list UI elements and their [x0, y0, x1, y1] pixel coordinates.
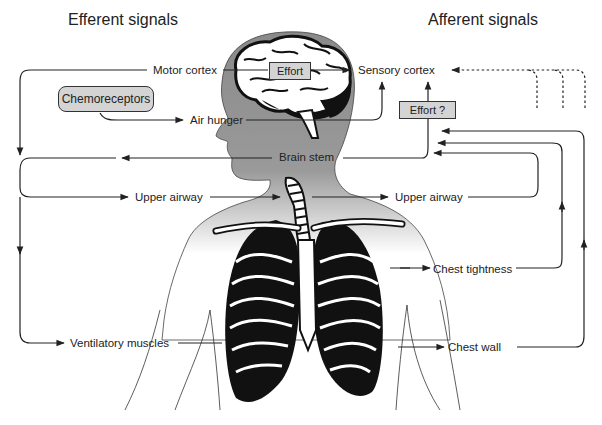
- dashed-afferent-inputs: [452, 70, 585, 108]
- motor-cortex-label: Motor cortex: [153, 64, 217, 77]
- brain-stem-label: Brain stem: [279, 151, 334, 164]
- upper-airway-afferent-label: Upper airway: [395, 191, 463, 204]
- chest-wall-label: Chest wall: [448, 341, 501, 354]
- afferent-signals-heading: Afferent signals: [428, 11, 538, 29]
- chest-tightness-label: Chest tightness: [433, 263, 512, 276]
- respiratory-signals-diagram: Efferent signals Afferent signals Chemor…: [0, 0, 602, 425]
- air-hunger-label: Air hunger: [190, 114, 243, 127]
- ventilatory-muscles-label: Ventilatory muscles: [70, 337, 169, 350]
- chemoreceptors-box: Chemoreceptors: [58, 86, 154, 112]
- efferent-signals-heading: Efferent signals: [68, 11, 178, 29]
- upper-airway-efferent-label: Upper airway: [135, 191, 203, 204]
- effort-question-box: Effort ?: [399, 101, 456, 119]
- effort-motor-box: Effort: [269, 62, 311, 80]
- sensory-cortex-label: Sensory cortex: [358, 64, 435, 77]
